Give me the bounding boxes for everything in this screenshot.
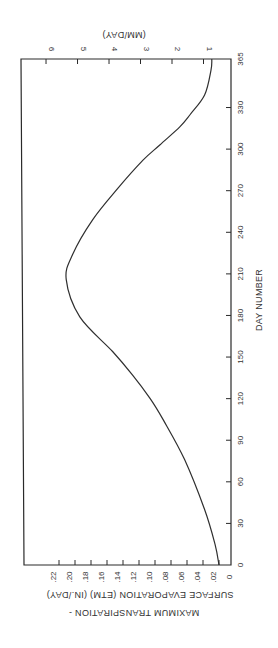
day-tick-label: 240	[236, 225, 245, 239]
value-tick-label: .02	[209, 571, 218, 583]
day-tick-label: 0	[236, 562, 245, 567]
value-tick-label: .20	[65, 571, 74, 583]
value-tick-label: .12	[129, 571, 138, 583]
day-number-axis-title: DAY NUMBER	[254, 269, 264, 331]
value-tick-label: .18	[81, 571, 90, 583]
value-axis-title-line2: SURFACE EVAPORATION (ETM) (IN./DAY)	[46, 590, 233, 600]
day-tick-label: 60	[236, 477, 245, 486]
value-axis-title-line1: MAXIMUM TRANSPIRATION -	[69, 608, 200, 618]
value-tick-label: .08	[161, 571, 170, 583]
day-tick-label: 30	[236, 518, 245, 527]
mm-tick-label: 5	[79, 47, 88, 52]
day-tick-label: 90	[236, 435, 245, 444]
etm-chart: 03060901201501802102402703003303650.02.0…	[0, 0, 278, 648]
mm-tick-label: 2	[173, 47, 182, 52]
day-tick-label: 365	[236, 52, 245, 66]
day-tick-label: 150	[236, 350, 245, 364]
day-tick-label: 300	[236, 142, 245, 156]
plot-frame	[21, 59, 231, 565]
value-tick-label: .16	[97, 571, 106, 583]
day-tick-label: 210	[236, 267, 245, 281]
day-tick-label: 180	[236, 308, 245, 322]
day-tick-label: 330	[236, 100, 245, 114]
axis-ticks	[46, 59, 231, 565]
value-tick-label: .06	[177, 571, 186, 583]
mm-tick-label: 1	[205, 47, 214, 52]
value-tick-label: .14	[113, 571, 122, 583]
axis-labels: 03060901201501802102402703003303650.02.0…	[47, 47, 245, 583]
day-tick-label: 120	[236, 391, 245, 405]
mm-tick-label: 4	[110, 47, 119, 52]
mm-tick-label: 6	[47, 47, 56, 52]
day-tick-label: 270	[236, 183, 245, 197]
mm-per-day-axis-title: (MM/DAY)	[102, 30, 146, 40]
value-tick-label: 0	[225, 574, 234, 579]
value-tick-label: .04	[193, 571, 202, 583]
etm-curve	[66, 59, 219, 565]
value-tick-label: .10	[145, 571, 154, 583]
value-tick-label: .22	[49, 571, 58, 583]
mm-tick-label: 3	[142, 47, 151, 52]
